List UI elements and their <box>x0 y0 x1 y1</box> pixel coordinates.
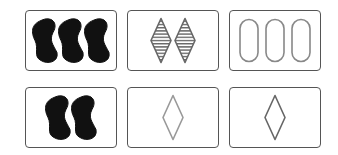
diamond-icon <box>151 19 171 63</box>
card-2-solid-squiggle[interactable] <box>25 87 117 148</box>
squiggle-icon <box>85 19 110 63</box>
oval-icon <box>266 20 284 62</box>
oval-icon <box>292 20 310 62</box>
squiggle-icon <box>33 19 58 63</box>
card-3-open-oval[interactable] <box>229 10 321 71</box>
oval-icon <box>240 20 258 62</box>
diamond-icon <box>265 96 285 140</box>
card-2-striped-diamond[interactable] <box>127 10 219 71</box>
squiggle-icon <box>46 96 71 140</box>
diamond-icon <box>175 19 195 63</box>
card-1-open-diamond[interactable] <box>229 87 321 148</box>
squiggle-icon <box>72 96 97 140</box>
diamond-icon <box>163 96 183 140</box>
card-3-solid-squiggle[interactable] <box>25 10 117 71</box>
squiggle-icon <box>59 19 84 63</box>
card-1-open-diamond[interactable] <box>127 87 219 148</box>
